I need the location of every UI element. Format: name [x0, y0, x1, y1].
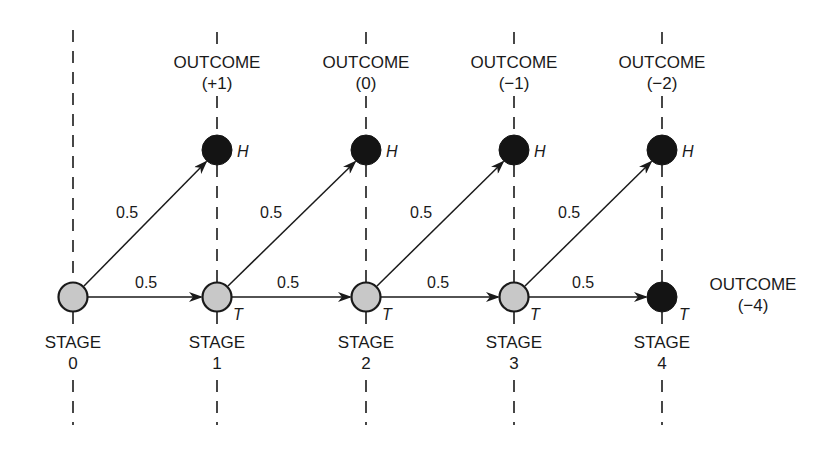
heads-node-2: [351, 135, 381, 165]
outcome-label-4: OUTCOME (−2): [619, 53, 706, 93]
svg-text:OUTCOME: OUTCOME: [619, 53, 706, 72]
edge-stage3-to-heads4: [525, 162, 651, 286]
stage-2-tail-tag: T: [382, 306, 393, 323]
heads-tag-4: H: [682, 143, 694, 160]
prob-label-diag-3: 0.5: [558, 204, 580, 221]
svg-text:STAGE: STAGE: [634, 333, 690, 352]
stage-label-3: STAGE 3: [486, 333, 542, 373]
svg-text:(0): (0): [356, 74, 377, 93]
svg-text:STAGE: STAGE: [486, 333, 542, 352]
svg-text:STAGE: STAGE: [45, 333, 101, 352]
prob-label-diag-0: 0.5: [116, 204, 138, 221]
edge-stage2-to-heads3: [377, 162, 503, 286]
stage-4-tail-tag: T: [679, 306, 690, 323]
prob-label-horiz-1: 0.5: [277, 274, 299, 291]
stage-0-node: [59, 283, 88, 312]
svg-text:3: 3: [509, 354, 518, 373]
svg-text:(−4): (−4): [738, 296, 769, 315]
heads-node-4: [647, 135, 677, 165]
stage-3-tail-tag: T: [530, 306, 541, 323]
prob-label-horiz-2: 0.5: [427, 274, 449, 291]
stage-1-node: [203, 283, 232, 312]
stage-1-tail-tag: T: [233, 306, 244, 323]
stage-3-node: [500, 283, 529, 312]
probability-tree-diagram: 0.5 0.5 0.5 0.5 0.5 0.5 0.5 0.5 T T T T …: [0, 0, 840, 452]
stage-label-0: STAGE 0: [45, 333, 101, 373]
heads-tag-1: H: [237, 143, 249, 160]
outcome-label-2: OUTCOME (0): [323, 53, 410, 93]
stage-label-4: STAGE 4: [634, 333, 690, 373]
edge-stage1-to-heads2: [228, 162, 355, 286]
heads-node-3: [499, 135, 529, 165]
prob-label-horiz-3: 0.5: [572, 274, 594, 291]
svg-text:OUTCOME: OUTCOME: [323, 53, 410, 72]
svg-text:0: 0: [68, 354, 77, 373]
svg-text:OUTCOME: OUTCOME: [471, 53, 558, 72]
svg-text:2: 2: [361, 354, 370, 373]
stage-2-node: [352, 283, 381, 312]
svg-text:1: 1: [212, 354, 221, 373]
final-outcome-label: OUTCOME (−4): [710, 275, 797, 315]
heads-tag-3: H: [534, 143, 546, 160]
outcome-label-1: OUTCOME (+1): [174, 53, 261, 93]
outcome-label-3: OUTCOME (−1): [471, 53, 558, 93]
svg-text:(−1): (−1): [499, 74, 530, 93]
edge-stage0-to-heads1: [84, 162, 206, 286]
prob-label-diag-2: 0.5: [410, 204, 432, 221]
svg-text:OUTCOME: OUTCOME: [174, 53, 261, 72]
heads-node-1: [202, 135, 232, 165]
svg-text:STAGE: STAGE: [189, 333, 245, 352]
prob-label-horiz-0: 0.5: [135, 274, 157, 291]
heads-tag-2: H: [386, 143, 398, 160]
svg-text:(+1): (+1): [202, 74, 233, 93]
stage-label-1: STAGE 1: [189, 333, 245, 373]
svg-text:(−2): (−2): [647, 74, 678, 93]
stage-label-2: STAGE 2: [338, 333, 394, 373]
svg-text:STAGE: STAGE: [338, 333, 394, 352]
stage-4-terminal-node: [647, 282, 677, 312]
prob-label-diag-1: 0.5: [260, 204, 282, 221]
svg-text:4: 4: [657, 354, 666, 373]
svg-text:OUTCOME: OUTCOME: [710, 275, 797, 294]
